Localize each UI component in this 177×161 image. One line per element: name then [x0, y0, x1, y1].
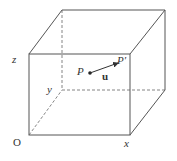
point-p-prime-label: P′ — [117, 55, 126, 66]
y-axis-label: y — [47, 84, 52, 95]
bottom-right-connector — [130, 90, 165, 135]
box-diagram — [0, 0, 177, 161]
point-p-label: P — [77, 66, 84, 77]
top-left-connector — [29, 10, 62, 54]
vector-u-label: u — [102, 71, 108, 82]
hidden-y-axis-edge — [29, 90, 62, 135]
x-axis-label: x — [124, 138, 129, 149]
origin-label: O — [13, 137, 21, 148]
top-right-connector — [130, 10, 165, 54]
z-axis-label: z — [12, 54, 16, 65]
